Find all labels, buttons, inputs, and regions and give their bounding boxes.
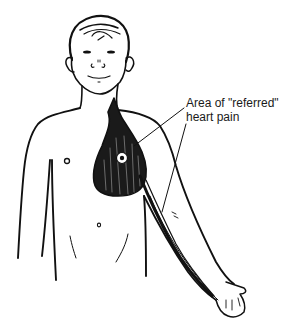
- body-drawing: [0, 0, 284, 326]
- leader-line-chest: [134, 108, 184, 146]
- referred-pain-illustration: Area of "referred" heart pain: [0, 0, 284, 326]
- left-arm: [144, 196, 246, 317]
- annotation-label: Area of "referred" heart pain: [186, 96, 279, 124]
- annotation-line-2: heart pain: [186, 110, 279, 124]
- referred-pain-area: [93, 98, 214, 296]
- annotation-line-1: Area of "referred": [186, 96, 279, 110]
- head: [66, 16, 134, 94]
